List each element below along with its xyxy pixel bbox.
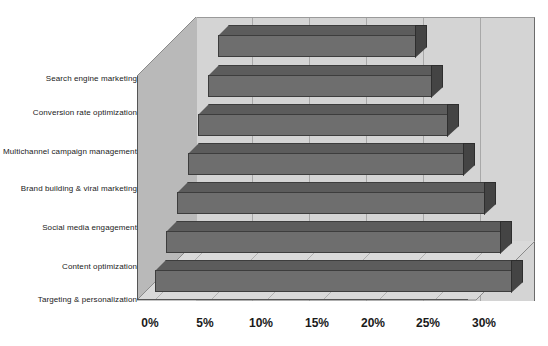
category-label: Targeting & personalization (38, 295, 137, 304)
chart-root: Search engine marketing Conversion rate … (0, 0, 548, 346)
category-label: Brand building & viral marketing (21, 184, 137, 193)
category-label: Search engine marketing (46, 74, 137, 83)
bar-front-face (188, 153, 464, 175)
bar-front-face (166, 231, 501, 253)
y-axis-line (137, 76, 138, 300)
category-label: Content optimization (62, 262, 137, 271)
x-tick-label: 10% (249, 316, 273, 330)
bar-front-face (208, 75, 432, 97)
x-axis-line (137, 299, 468, 300)
x-tick-label: 25% (416, 316, 440, 330)
bar-front-face (177, 192, 485, 214)
x-tick-label: 15% (305, 316, 329, 330)
bar-front-face (218, 35, 416, 57)
x-tick-label: 30% (472, 316, 496, 330)
x-tick-label: 0% (141, 316, 158, 330)
category-axis-labels: Search engine marketing Conversion rate … (0, 0, 137, 346)
category-label: Conversion rate optimization (33, 108, 137, 117)
bar-front-face (198, 114, 448, 136)
bar-front-face (155, 270, 512, 292)
x-tick-label: 5% (196, 316, 213, 330)
category-label: Social media engagement (42, 223, 137, 232)
x-tick-label: 20% (361, 316, 385, 330)
category-label: Multichannel campaign management (3, 147, 137, 156)
